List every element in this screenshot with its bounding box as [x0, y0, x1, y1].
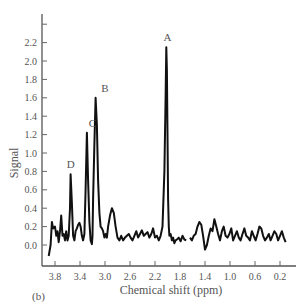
- peak-label-a: A: [164, 31, 172, 43]
- x-tick-label: 1.8: [174, 271, 187, 282]
- y-tick-label: 0.6: [25, 184, 38, 195]
- x-tick-label: 3.8: [49, 271, 62, 282]
- x-tick-label: 1.4: [199, 271, 212, 282]
- peak-labels: ABCD: [67, 31, 172, 170]
- panel-label: (b): [32, 290, 45, 303]
- x-axis-label: Chemical shift (ppm): [120, 283, 223, 297]
- peak-label-b: B: [101, 82, 108, 94]
- y-tick-label: 2.2: [25, 37, 38, 48]
- y-tick-label: 0.8: [25, 166, 38, 177]
- y-tick-label: 0.4: [25, 203, 38, 214]
- x-tick-label: 3.4: [74, 271, 87, 282]
- peak-label-c: C: [89, 117, 96, 129]
- y-axis-label: Signal: [7, 147, 21, 178]
- peak-label-d: D: [67, 158, 75, 170]
- y-tick-label: 1.6: [25, 92, 38, 103]
- y-axis: 0.00.20.40.60.81.01.21.41.61.82.02.2: [25, 14, 48, 266]
- y-tick-label: 0.0: [25, 240, 38, 251]
- x-tick-label: 0.2: [274, 271, 287, 282]
- x-tick-label: 3.0: [99, 271, 112, 282]
- x-axis: 3.83.43.02.62.21.81.41.00.60.2: [42, 261, 296, 282]
- nmr-spectrum-chart: 0.00.20.40.60.81.01.21.41.61.82.02.2 3.8…: [0, 0, 301, 308]
- x-tick-label: 0.6: [249, 271, 262, 282]
- x-tick-label: 2.6: [124, 271, 137, 282]
- y-tick-label: 2.0: [25, 56, 38, 67]
- y-tick-label: 0.2: [25, 221, 38, 232]
- y-tick-label: 1.8: [25, 74, 38, 85]
- x-tick-label: 1.0: [224, 271, 237, 282]
- y-tick-label: 1.2: [25, 129, 38, 140]
- x-tick-label: 2.2: [149, 271, 162, 282]
- spectrum-line: [49, 47, 286, 256]
- y-tick-label: 1.0: [25, 148, 38, 159]
- y-tick-label: 1.4: [25, 111, 38, 122]
